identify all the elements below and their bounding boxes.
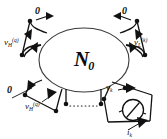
port-top-left-label: 0 [35,6,40,16]
port-bottom-left-terminal-a [23,93,28,98]
port-top-right-label: 0 [122,6,127,16]
port-right-label: vL(k) [134,38,147,48]
bottom-center-terminal-a [64,102,69,107]
port-bottom-left-source-arrowhead [47,88,57,99]
port-left-arrowhead [30,42,38,53]
multiport-network-figure: N0 0 0 vH(q) vL(k) 0 vH(q) vk ik [0,0,167,139]
measured-port-voltage-label-sub: k [110,87,112,93]
network-label: N0 [74,47,94,74]
port-right-label-sup: (k) [141,37,147,43]
measured-port-current-label: ik [127,128,132,138]
port-left-label-sup: (q) [12,37,19,43]
port-bottom-left-source-label: vH(q) [25,102,40,112]
port-top-right-terminal-a [135,19,140,24]
port-bottom-left-zero-arrowhead [27,80,36,91]
bottom-center-terminal-b [99,102,104,107]
network-label-main: N [74,47,88,71]
port-left-label: vH(q) [4,38,19,48]
port-bottom-left-terminal-b [54,109,59,114]
port-bottom-left-zero-label: 0 [7,85,12,95]
measured-port-terminal-a [102,97,107,102]
port-bottom-left-source-label-sup: (q) [33,101,40,107]
port-top-left-terminal-a [28,19,33,24]
network-label-sub: 0 [88,59,94,73]
measured-port-voltage-label: vk [106,83,112,93]
measured-port-current-label-sub: k [130,132,132,138]
